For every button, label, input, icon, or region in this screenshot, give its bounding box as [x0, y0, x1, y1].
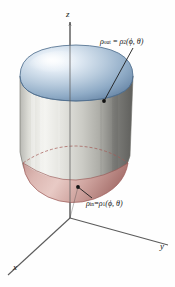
outer-cap-highlight	[28, 51, 96, 85]
x-axis-line	[8, 218, 70, 275]
diagram-svg	[0, 0, 175, 287]
y-axis-line	[70, 218, 168, 245]
rho-out-subscript: out	[104, 39, 111, 45]
y-axis-label: y	[160, 241, 164, 251]
outer-point-marker	[102, 99, 106, 103]
x-axis-label: x	[13, 262, 17, 272]
outer-cap-group	[20, 45, 133, 101]
figure-canvas: z y x ρout = ρ2(ϕ, θ) ρin=ρ1(ϕ, θ)	[0, 0, 175, 287]
inner-args: (ϕ, θ)	[105, 199, 122, 208]
inner-surface-equation-label: ρin=ρ1(ϕ, θ)	[86, 199, 123, 208]
outer-surface-equation-label: ρout = ρ2(ϕ, θ)	[100, 37, 143, 46]
outer-args: (ϕ, θ)	[126, 37, 143, 46]
z-axis-label: z	[66, 9, 70, 19]
